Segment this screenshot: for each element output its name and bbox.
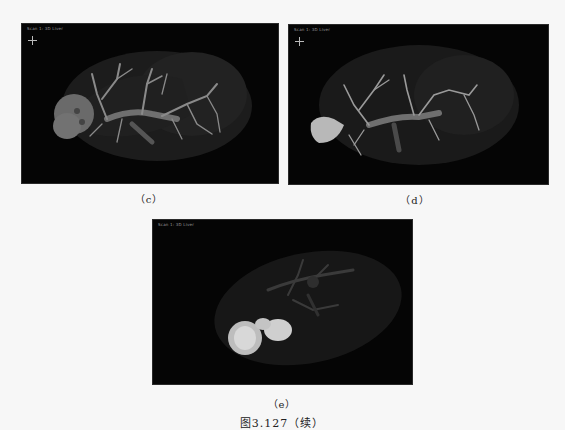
panel-overlay-label: Scan 1: 3D Liver: [158, 222, 194, 227]
render-panel-c: Scan 1: 3D Liver: [21, 23, 279, 184]
caption-d: （d）: [390, 192, 440, 207]
orientation-axes-icon: [28, 36, 37, 45]
caption-e: （e）: [257, 396, 307, 411]
panel-overlay-label: Scan 1: 3D Liver: [294, 27, 330, 32]
liver-3d-render-d: [289, 25, 548, 184]
caption-c: （c）: [124, 191, 174, 206]
render-panel-d: Scan 1: 3D Liver: [288, 24, 549, 185]
liver-3d-render-c: [22, 24, 278, 183]
liver-3d-render-e: [153, 220, 412, 384]
orientation-axes-icon: [295, 37, 304, 46]
render-panel-e: Scan 1: 3D Liver: [152, 219, 413, 385]
panel-overlay-label: Scan 1: 3D Liver: [27, 26, 63, 31]
figure-title: 图3.127（续）: [232, 414, 332, 430]
